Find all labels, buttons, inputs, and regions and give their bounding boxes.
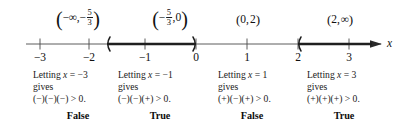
test-line-gives: gives xyxy=(118,81,210,93)
test-line-value: = 1 xyxy=(252,69,267,80)
test-block-x-neg-3: Letting x = −3 gives (−)(−)(−) > 0. xyxy=(33,69,125,104)
open-endpoint-left-paren-icon xyxy=(108,37,110,51)
test-line-prefix: Letting xyxy=(33,69,63,80)
interval-label-neg-inf-to-neg-five-thirds: (−∞,−53) xyxy=(56,8,100,26)
test-line-substitution: Letting x = 1 xyxy=(218,69,310,81)
axis-variable-label: x xyxy=(387,38,392,50)
test-line-value: = −3 xyxy=(67,69,87,80)
open-endpoint-right-paren-icon xyxy=(193,37,195,51)
fraction-five-thirds: 53 xyxy=(166,8,172,26)
close-paren: ) xyxy=(93,12,100,26)
tick-label-neg-2: −2 xyxy=(83,52,95,64)
tick-label-neg-1: −1 xyxy=(139,52,151,64)
test-line-value: = 3 xyxy=(341,69,356,80)
test-line-substitution: Letting x = 3 xyxy=(307,69,399,81)
close-paren: ) xyxy=(349,13,353,26)
minus-sign: − xyxy=(159,11,166,23)
test-line-gives: gives xyxy=(218,81,310,93)
fraction-denominator: 3 xyxy=(166,18,172,27)
test-line-prefix: Letting xyxy=(307,69,337,80)
test-block-x-3: Letting x = 3 gives (+)(+)(+) > 0. xyxy=(307,69,399,104)
test-line-prefix: Letting xyxy=(118,69,148,80)
infinity-symbol: ∞ xyxy=(341,13,349,25)
fraction-denominator: 3 xyxy=(87,18,93,27)
minus-sign: − xyxy=(80,11,87,23)
test-line-sign-product: (+)(−)(+) > 0. xyxy=(218,93,310,105)
test-block-x-1: Letting x = 1 gives (+)(−)(+) > 0. xyxy=(218,69,310,104)
comma: , xyxy=(337,13,340,25)
open-paren: ( xyxy=(56,12,63,26)
tick-label-neg-3: −3 xyxy=(34,52,46,64)
test-line-substitution: Letting x = −1 xyxy=(118,69,210,81)
verdict-x-3: True xyxy=(334,111,355,121)
tick-label-2: 2 xyxy=(295,52,301,64)
verdict-x-neg-3: False xyxy=(67,111,90,121)
tick-label-3: 3 xyxy=(346,52,352,64)
test-line-value: = −1 xyxy=(152,69,172,80)
comma: , xyxy=(246,13,249,25)
tick-label-1: 1 xyxy=(244,52,250,64)
test-line-sign-product: (−)(−)(+) > 0. xyxy=(118,93,210,105)
interval-label-neg-five-thirds-to-zero: (−53,0) xyxy=(152,8,188,26)
test-line-sign-product: (+)(+)(+) > 0. xyxy=(307,93,399,105)
open-endpoint-left-paren-icon xyxy=(299,37,301,51)
test-block-x-neg-1: Letting x = −1 gives (−)(−)(+) > 0. xyxy=(118,69,210,104)
interval-label-zero-to-two: (0, 2) xyxy=(236,13,260,26)
test-line-substitution: Letting x = −3 xyxy=(33,69,125,81)
interval-label-two-to-infinity: (2, ∞) xyxy=(327,13,353,26)
verdict-x-neg-1: True xyxy=(150,111,171,121)
neg-infinity-symbol: −∞ xyxy=(63,11,77,23)
sign-chart-figure: (−∞,−53) (−53,0) (0, 2) (2, ∞) −3 −2 −1 … xyxy=(0,0,401,135)
close-paren: ) xyxy=(256,13,260,26)
open-paren: ( xyxy=(152,12,159,26)
close-paren: ) xyxy=(181,12,188,26)
axis-arrowhead-icon xyxy=(370,40,382,48)
test-line-gives: gives xyxy=(33,81,125,93)
test-line-gives: gives xyxy=(307,81,399,93)
tick-label-0: 0 xyxy=(193,52,199,64)
fraction-five-thirds: 53 xyxy=(87,8,93,26)
test-line-sign-product: (−)(−)(−) > 0. xyxy=(33,93,125,105)
test-line-prefix: Letting xyxy=(218,69,248,80)
verdict-x-1: False xyxy=(241,111,264,121)
